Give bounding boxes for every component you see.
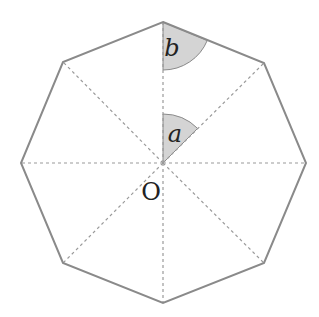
angle-a-label: a (168, 120, 182, 148)
radius-bottom-right (163, 163, 264, 263)
angle-b-label: b (164, 34, 179, 62)
radii (21, 22, 306, 303)
octagon-diagram: b a O (0, 0, 319, 317)
radius-top-left (63, 62, 163, 163)
center-label: O (141, 178, 161, 206)
